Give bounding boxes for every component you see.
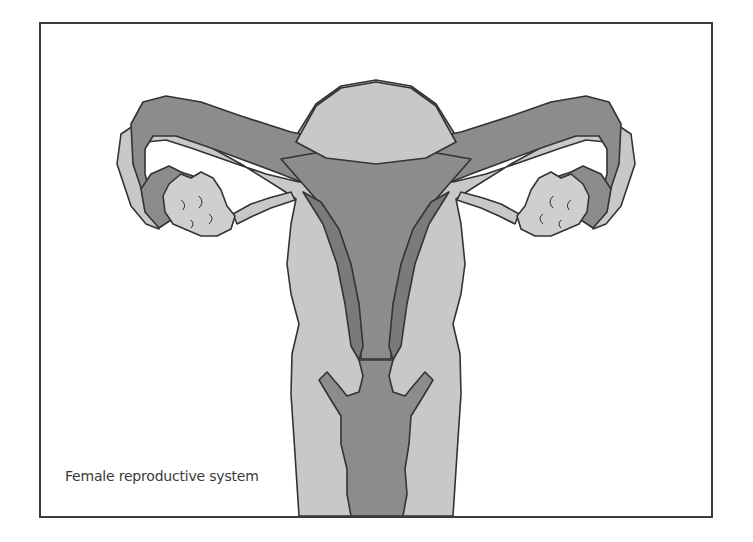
figure-caption: Female reproductive system — [65, 468, 259, 484]
ovary-left — [163, 172, 235, 236]
ovarian-ligament-left — [233, 192, 295, 224]
uterus-fundus — [296, 82, 456, 164]
ovarian-ligament-right — [457, 192, 519, 224]
figure-frame: Female reproductive system — [39, 22, 713, 518]
reproductive-system-diagram — [41, 24, 711, 516]
ovary-right — [517, 172, 589, 236]
